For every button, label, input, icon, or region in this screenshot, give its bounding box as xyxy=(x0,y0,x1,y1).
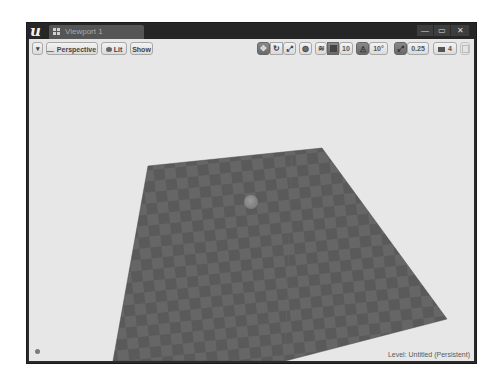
perspective-button[interactable]: Perspective xyxy=(46,42,98,55)
viewport-window: u Viewport 1 — ▭ ✕ xyxy=(26,22,477,364)
rotation-snap-value-dropdown[interactable]: 10° xyxy=(369,42,388,55)
rotation-snap-icon: ◬ xyxy=(360,44,366,53)
level-viewport[interactable]: ▾ Perspective Lit Show ✥ ↻ ⤢ ◍ xyxy=(29,39,474,361)
perspective-icon xyxy=(46,47,56,52)
camera-speed-button[interactable]: 4 xyxy=(433,42,457,55)
minimize-button[interactable]: — xyxy=(417,25,434,36)
rotate-tool-button[interactable]: ↻ xyxy=(270,42,283,55)
world-globe-icon: ◍ xyxy=(302,44,309,53)
coordinate-system-button[interactable]: ◍ xyxy=(299,42,312,55)
floor-plane xyxy=(113,148,447,361)
scale-snap-toggle[interactable]: ⤢ xyxy=(394,42,407,55)
level-name-label: Level: Untitled (Persistent) xyxy=(388,351,470,358)
viewport-options-button[interactable]: ▾ xyxy=(32,42,43,55)
rotate-icon: ↻ xyxy=(273,44,280,53)
maximize-viewport-button[interactable] xyxy=(460,42,470,55)
rotation-snap-toggle[interactable]: ◬ xyxy=(356,42,369,55)
translate-tool-button[interactable]: ✥ xyxy=(257,42,270,55)
sphere-actor xyxy=(244,195,258,209)
scene-render xyxy=(29,39,474,361)
scale-snap-icon: ⤢ xyxy=(398,44,404,53)
grid-snap-value-dropdown[interactable]: 10 xyxy=(339,42,353,55)
maximize-viewport-icon xyxy=(462,45,469,53)
surface-snap-icon: ≋ xyxy=(318,44,325,53)
viewport-toolbar: ▾ Perspective Lit Show ✥ ↻ ⤢ ◍ xyxy=(29,39,474,59)
scale-tool-button[interactable]: ⤢ xyxy=(283,42,296,55)
axis-indicator-icon xyxy=(35,349,40,354)
close-button[interactable]: ✕ xyxy=(451,25,470,36)
viewport-grid-icon xyxy=(53,28,61,35)
maximize-button[interactable]: ▭ xyxy=(434,25,451,36)
lit-sphere-icon xyxy=(106,47,112,52)
scale-icon: ⤢ xyxy=(287,44,293,53)
show-menu-button[interactable]: Show xyxy=(130,42,153,55)
lit-view-mode-button[interactable]: Lit xyxy=(101,42,127,55)
grid-snap-toggle[interactable] xyxy=(327,42,339,55)
tab-label: Viewport 1 xyxy=(65,26,103,38)
unreal-logo-icon: u xyxy=(30,23,46,39)
scale-snap-value-dropdown[interactable]: 0.25 xyxy=(407,42,429,55)
tab-viewport-1[interactable]: Viewport 1 xyxy=(49,25,144,39)
surface-snapping-button[interactable]: ≋ xyxy=(315,42,327,55)
title-bar[interactable]: u Viewport 1 — ▭ ✕ xyxy=(27,23,476,39)
translate-icon: ✥ xyxy=(260,44,267,53)
chevron-down-icon: ▾ xyxy=(36,45,40,52)
window-controls: — ▭ ✕ xyxy=(417,25,470,37)
camera-speed-icon xyxy=(438,47,445,52)
grid-snap-icon xyxy=(330,45,337,52)
